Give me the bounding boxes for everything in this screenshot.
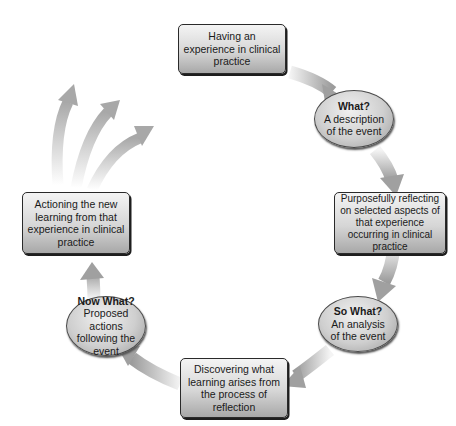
arrow-sowhat-to-discovering: [282, 350, 330, 388]
node-question: Now What?: [77, 295, 134, 308]
node-now-what: Now What? Proposed actions following the…: [66, 296, 146, 356]
arrow-what-to-reflecting: [375, 150, 404, 196]
node-actioning-learning: Actioning the new learning from that exp…: [22, 192, 130, 254]
node-purposefully-reflecting: Purposefully reflecting on selected aspe…: [334, 192, 446, 254]
node-what: What? A description of the event: [314, 90, 394, 148]
node-text: Purposefully reflecting on selected aspe…: [339, 193, 441, 253]
arrow-outward-3: [92, 126, 154, 190]
node-question: What?: [338, 100, 370, 113]
node-text: A description of the event: [319, 113, 389, 138]
node-text: An analysis of the event: [326, 318, 390, 343]
node-having-experience: Having an experience in clinical practic…: [178, 24, 286, 74]
node-text: Proposed actions following the event: [68, 307, 144, 357]
node-question: So What?: [334, 305, 382, 318]
node-so-what: So What? An analysis of the event: [318, 296, 398, 352]
arrow-reflecting-to-sowhat: [372, 246, 396, 302]
node-text: Actioning the new learning from that exp…: [27, 198, 125, 248]
node-discovering-learning: Discovering what learning arises from th…: [180, 358, 288, 418]
node-text: Having an experience in clinical practic…: [183, 30, 281, 68]
node-text: Discovering what learning arises from th…: [185, 363, 283, 413]
